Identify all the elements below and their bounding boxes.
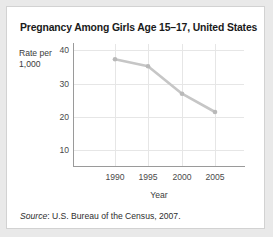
data-point-1995 [146,64,151,69]
source-text: : U.S. Bureau of the Census, 2007. [47,211,180,221]
x-axis-label: Year [73,190,245,200]
source-label: Source [20,211,47,221]
source-note: Source: U.S. Bureau of the Census, 2007. [20,211,181,221]
figure-card: Pregnancy Among Girls Age 15–17, United … [6,6,265,229]
series-line-pregnancy-rate [115,59,215,112]
data-point-2005 [213,110,218,115]
plot-wrapper: 40 30 20 10 1990 1995 2000 2005 Year [7,7,266,230]
data-point-1990 [113,57,118,62]
data-point-2000 [180,91,185,96]
